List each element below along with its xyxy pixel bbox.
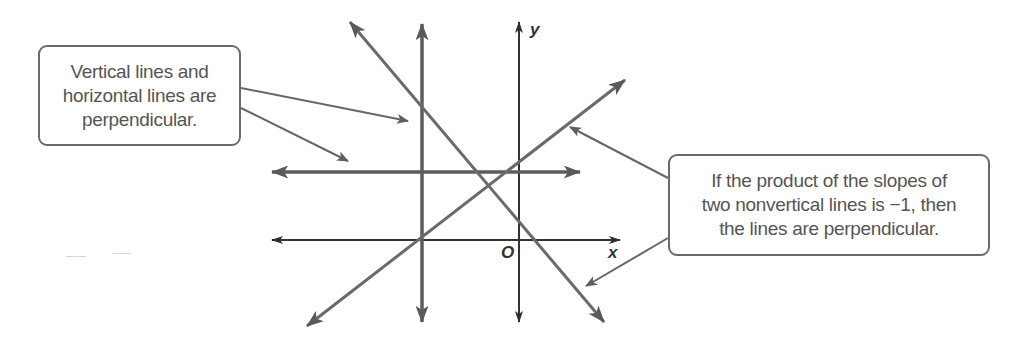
callout-right-pointer-decreasing (586, 238, 668, 286)
scan-artifact (113, 253, 131, 254)
callout-vertical-horizontal: Vertical lines and horizontal lines are … (38, 45, 241, 146)
scan-artifact (66, 256, 86, 257)
callout-text-line: If the product of the slopes of (711, 169, 947, 193)
callout-text-line: Vertical lines and (70, 60, 208, 84)
callout-text-line: the lines are perpendicular. (719, 217, 939, 241)
callout-left-pointer-horizontal (241, 108, 348, 161)
y-axis-label: y (530, 20, 539, 40)
callout-slope-product: If the product of the slopes of two nonv… (668, 154, 990, 256)
x-axis-label: x (608, 243, 617, 263)
callout-text-line: perpendicular. (82, 108, 197, 132)
callout-right-pointer-increasing (570, 127, 668, 178)
callout-left-pointer-vertical (241, 88, 408, 121)
callout-text-line: two nonvertical lines is −1, then (702, 193, 957, 217)
origin-label: O (501, 243, 514, 263)
callout-text-line: horizontal lines are (63, 84, 216, 108)
